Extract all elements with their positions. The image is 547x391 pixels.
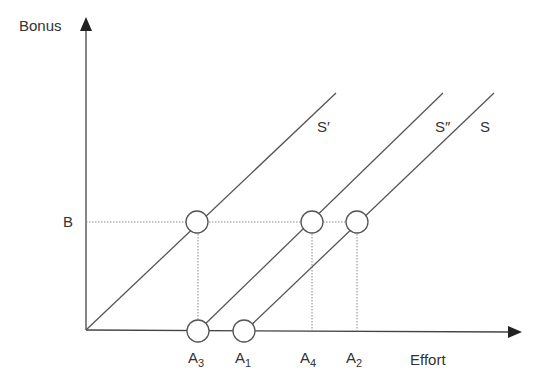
effort-label-a1: A1 [235, 349, 251, 366]
diagram-canvas [0, 0, 547, 391]
line-s-prime [86, 93, 336, 330]
line-label-s-double-prime: S″ [435, 118, 450, 135]
point-a3 [187, 320, 209, 342]
line-label-s-prime: S′ [317, 118, 330, 135]
point-s-at-b [346, 211, 368, 233]
y-axis-arrow-icon [80, 17, 92, 31]
point-s-prime-at-b [186, 211, 208, 233]
point-s-double-prime-at-b [301, 211, 323, 233]
y-axis-label: Bonus [19, 17, 62, 34]
x-axis-arrow-icon [508, 326, 522, 338]
x-axis [86, 330, 510, 332]
effort-label-a2: A2 [346, 349, 362, 366]
bonus-level-label: B [63, 213, 73, 230]
line-s [245, 93, 494, 331]
effort-label-a3: A3 [188, 349, 204, 366]
point-a1 [233, 320, 255, 342]
line-label-s: S [480, 118, 490, 135]
effort-label-a4: A4 [300, 349, 316, 366]
x-axis-label: Effort [410, 351, 446, 368]
